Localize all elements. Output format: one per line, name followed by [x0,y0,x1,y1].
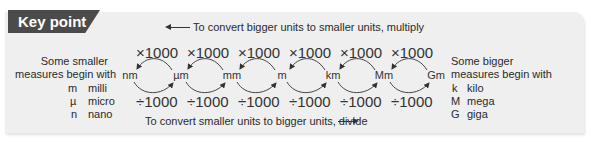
right-intro-line2: measures begin with [451,68,552,81]
prefix-name-mega: mega [467,95,495,108]
divide-label: ÷1000 [340,93,382,110]
arrow-right-icon [353,118,359,124]
divide-label: ÷1000 [187,93,229,110]
right-intro-line1: Some bigger [451,55,513,68]
bottom-note: To convert smaller units to bigger units… [145,115,368,128]
prefix-symbol-mega: M [451,95,460,108]
divide-label: ÷1000 [289,93,331,110]
divide-label: ÷1000 [136,93,178,110]
arrow-right-line [338,121,354,122]
divide-label: ÷1000 [391,93,433,110]
prefix-name-kilo: kilo [467,82,484,95]
prefix-symbol-giga: G [451,108,460,121]
prefix-symbol-kilo: k [452,82,458,95]
prefix-name-giga: giga [467,108,488,121]
divide-label: ÷1000 [238,93,280,110]
